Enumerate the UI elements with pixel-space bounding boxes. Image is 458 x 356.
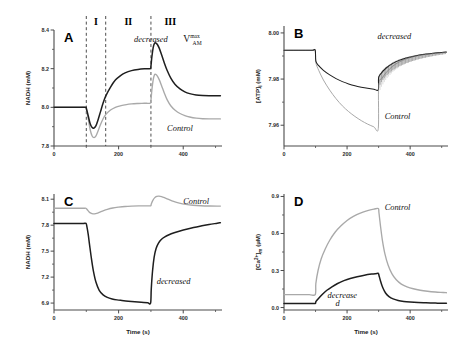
y-ticklabel: 8.2: [42, 66, 50, 72]
x-ticklabel: 400: [179, 151, 188, 157]
y-ticklabel: 0.3: [272, 268, 280, 274]
x-ticklabel: 0: [53, 151, 56, 157]
panel-letter: A: [64, 30, 74, 45]
trace-decreased: [284, 273, 446, 303]
y-axis-title: [Ca2+]m (µM): [254, 234, 263, 270]
trace-control: [284, 49, 446, 131]
x-ticklabel: 400: [406, 151, 415, 157]
trace-control: [284, 208, 446, 295]
y-ticklabel: 8.0: [42, 104, 50, 110]
x-ticklabel: 400: [179, 315, 188, 321]
y-ticklabel: 7.96: [269, 122, 280, 128]
y-axis-title: [ATP]i (mM): [254, 69, 263, 103]
annotation-decreased-0: decreased: [134, 35, 168, 44]
phase-label-iii: III: [164, 16, 176, 27]
phase-label-ii: II: [124, 16, 132, 27]
x-ticklabel: 200: [343, 315, 352, 321]
y-axis-title: NADH (mM): [24, 235, 31, 269]
panel-letter: C: [64, 194, 74, 209]
panel-letter: B: [294, 26, 303, 41]
y-ticklabel: 0.0: [272, 305, 280, 311]
axes-b: [284, 26, 448, 146]
y-ticklabel: 0.6: [272, 230, 280, 236]
y-axis-title: NADH (mM): [24, 71, 31, 105]
trace-control: [54, 74, 220, 137]
y-ticklabel: 7.8: [42, 222, 50, 228]
axes-c: [54, 194, 222, 310]
y-ticklabel: 6.9: [42, 300, 50, 306]
panel-b: 7.967.988.000200400[ATP]i (mM)Bdecreased…: [236, 8, 454, 174]
y-ticklabel: 7.2: [42, 274, 50, 280]
annotation-control-2: Control: [167, 124, 193, 133]
annotation-control-1: Control: [385, 112, 411, 121]
annotation-vam-max: VmaxAM: [183, 33, 201, 47]
axes-a: [54, 30, 222, 146]
x-ticklabel: 200: [114, 151, 123, 157]
trace-decreased: [284, 49, 446, 90]
annotation-control-0: Control: [183, 197, 209, 206]
y-ticklabel: 7.5: [42, 248, 50, 254]
y-ticklabel: 7.8: [42, 143, 50, 149]
y-ticklabel: 0.9: [272, 193, 280, 199]
trace-decreased: [54, 43, 220, 128]
annotation-decreased-0: decreased: [378, 32, 412, 41]
trace-decreased: [54, 223, 220, 304]
annotation-control-0: Control: [385, 203, 411, 212]
panel-c: 6.97.27.57.88.10200400NADH (mM)Time (s)C…: [8, 180, 230, 352]
annotation-decrease-1: decrease: [328, 291, 358, 300]
x-ticklabel: 0: [283, 315, 286, 321]
x-ticklabel: 200: [114, 315, 123, 321]
x-ticklabel: 0: [283, 151, 286, 157]
annotation-decreased-1: decreased: [157, 277, 191, 286]
x-ticklabel: 400: [406, 315, 415, 321]
panel-a: 7.88.08.28.40200400NADH (mM)AIIIIIIdecre…: [8, 8, 230, 174]
phase-label-i: I: [94, 16, 98, 27]
panel-letter: D: [294, 194, 303, 209]
y-ticklabel: 7.98: [269, 76, 280, 82]
x-axis-title: Time (s): [126, 328, 150, 335]
y-ticklabel: 8.4: [42, 27, 50, 33]
figure-canvas: 7.88.08.28.40200400NADH (mM)AIIIIIIdecre…: [0, 0, 458, 356]
y-ticklabel: 8.1: [42, 196, 50, 202]
y-ticklabel: 8.00: [269, 30, 280, 36]
oscillation-band: [379, 52, 446, 94]
panel-d: 0.00.30.60.90200400[Ca2+]m (µM)Time (s)D…: [236, 180, 454, 352]
x-axis-title: Time (s): [354, 328, 378, 335]
x-ticklabel: 200: [343, 151, 352, 157]
x-ticklabel: 0: [53, 315, 56, 321]
